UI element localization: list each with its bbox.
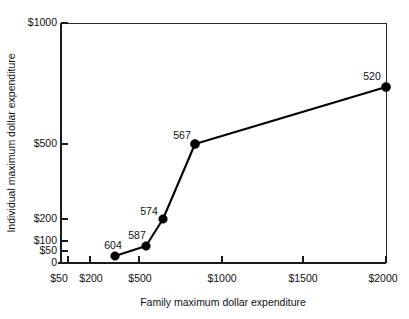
data-point-label-3: 574 — [140, 205, 158, 217]
x-tick-label-1000: $1000 — [207, 272, 236, 284]
x-tick-label-500: $500 — [128, 272, 152, 284]
data-point-3[interactable] — [159, 215, 168, 224]
y-axis-title: Individual maximum dollar expenditure — [5, 53, 17, 232]
data-point-2[interactable] — [142, 242, 151, 251]
x-tick-label-1500: $1500 — [288, 272, 317, 284]
x-tick-label-200: $200 — [79, 272, 103, 284]
y-tick-label-500: $500 — [34, 137, 58, 149]
data-point-label-4: 567 — [173, 129, 191, 141]
x-tick-label-50: $50 — [50, 272, 68, 284]
data-point-5[interactable] — [381, 82, 390, 91]
data-point-label-1: 604 — [104, 239, 122, 251]
y-tick-label-200: $200 — [34, 212, 58, 224]
y-tick-label-50: $50 — [39, 244, 57, 256]
x-tick-label-2000: $2000 — [368, 272, 397, 284]
data-point-label-5: 520 — [363, 70, 381, 82]
data-point-4[interactable] — [190, 139, 199, 148]
x-axis-title: Family maximum dollar expenditure — [140, 296, 306, 308]
line-chart: $1000 $500 $200 $100 $50 0 $50 $200 $500… — [0, 0, 409, 319]
chart-page: $1000 $500 $200 $100 $50 0 $50 $200 $500… — [0, 0, 409, 319]
y-tick-label-1000: $1000 — [28, 16, 57, 28]
y-tick-label-0: 0 — [51, 256, 57, 268]
data-point-1[interactable] — [111, 252, 120, 261]
data-point-label-2: 587 — [128, 229, 146, 241]
